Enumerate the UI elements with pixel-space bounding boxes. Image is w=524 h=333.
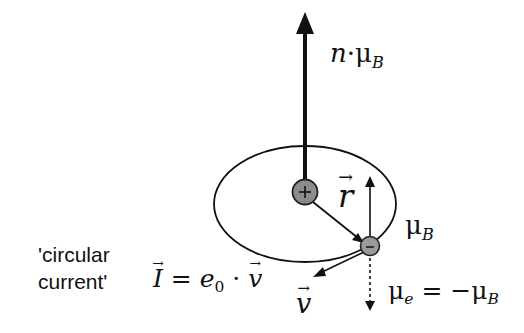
velocity-label: v [296,290,311,317]
electron [361,237,380,256]
current-formula: I = e0 · v [153,266,262,291]
v-symbol: v [296,290,311,317]
subscript-0: 0 [215,278,225,296]
equals-sign: = [163,264,200,293]
current-symbol: I [153,266,163,291]
electron-moment-arrow [365,258,375,311]
mu-symbol: μ [355,38,372,68]
equals-minus: = − [413,276,471,305]
r-symbol: r [338,180,353,212]
orbit-moment-label: μB [405,212,434,238]
circular-current-label: 'circular current' [38,241,110,295]
nucleus [293,180,318,205]
charge-symbol: e [200,264,215,293]
circular-current-line1: 'circular [38,241,110,268]
orbit-moment-arrow [365,176,375,238]
velocity-arrow [313,252,364,277]
mu-symbol-2: μ [471,276,487,305]
subscript-e: e [404,290,413,308]
total-moment-label: n·μB [330,40,384,66]
electron-moment-formula: μe = −μB [388,278,499,303]
velocity-symbol: v [248,266,262,291]
total-moment-arrow [296,12,314,185]
mu-symbol: μ [388,276,404,305]
dot-symbol: · [347,38,355,68]
subscript-b: B [487,290,498,308]
dot-symbol: · [224,264,248,293]
radius-label: r [338,180,353,212]
n-symbol: n [330,38,347,68]
circular-current-line2: current' [38,268,110,295]
mu-symbol: μ [405,210,422,240]
subscript-b: B [372,53,384,72]
subscript-b: B [422,225,434,244]
